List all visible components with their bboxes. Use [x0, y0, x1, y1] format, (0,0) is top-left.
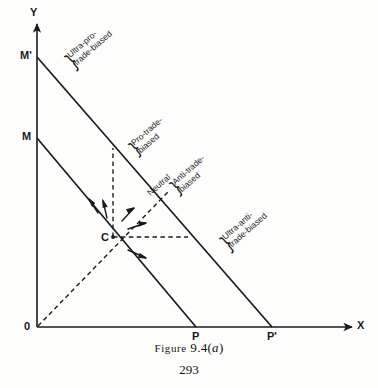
neutral-ray — [38, 192, 168, 326]
production-lines — [37, 57, 272, 327]
axis-group — [37, 24, 352, 327]
line-m-prime-p-prime — [37, 57, 272, 327]
arrow-neutral — [122, 208, 134, 221]
arrow-ultra-pro-trade-biased — [89, 199, 98, 213]
growth-direction-arrows — [89, 199, 146, 258]
arrow-pro-trade-biased — [103, 201, 107, 218]
trade-bias-diagram — [0, 0, 378, 388]
line-m-p — [37, 138, 196, 327]
point-c-marker — [111, 235, 115, 239]
figure-container: Y X 0 M' M P P' C } Ultra-pro- trade-bia… — [0, 0, 378, 388]
